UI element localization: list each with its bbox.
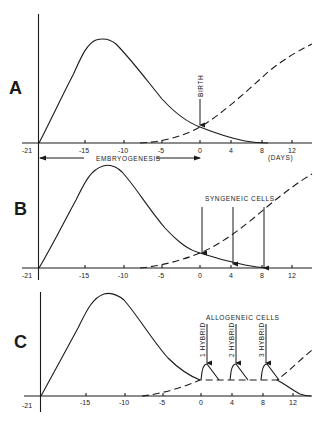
svg-text:-5: -5 [159,399,165,406]
svg-text:-15: -15 [79,147,89,154]
hybrid-label-3: 3 HYBRID [258,322,265,357]
curve-solid-c [41,293,200,396]
hybrid-label-1: 1 HYBRID [199,322,206,357]
svg-text:8: 8 [260,147,264,154]
panel-label-b: B [14,199,27,219]
allogeneic-label: ALLOGENEIC CELLS [206,314,280,321]
panel-c: C -21 -15 -10 -5 0 4 8 12 [14,292,312,412]
curve-solid-b [39,165,268,268]
syngeneic-label: SYNGENEIC CELLS [205,195,275,202]
svg-text:-10: -10 [118,147,128,154]
svg-text:12: 12 [289,399,297,406]
svg-text:4: 4 [230,399,234,406]
svg-text:0: 0 [198,272,202,279]
figure: A -21 -15 -10 -5 0 4 8 12 (DAYS) [0,0,333,427]
svg-text:12: 12 [288,147,296,154]
svg-text:8: 8 [261,399,265,406]
hybrid-bump-3 [261,364,279,380]
curve-solid-a [39,39,268,143]
svg-text:4: 4 [229,147,233,154]
panel-a: A -21 -15 -10 -5 0 4 8 12 (DAYS) [9,14,312,165]
panel-b: B -21 -15 -10 -5 0 4 8 12 SYNGENEIC CELL… [14,165,312,280]
svg-text:0: 0 [198,147,202,154]
curve-dashed-a [140,44,312,143]
svg-text:0: 0 [199,399,203,406]
curve-solid-c-tail [277,380,311,396]
birth-label: BIRTH [197,75,204,97]
svg-text:-5: -5 [158,147,164,154]
hybrid-bump-2 [230,364,248,380]
hybrid-label-2: 2 HYBRID [228,322,235,357]
svg-text:-15: -15 [80,399,90,406]
svg-text:8: 8 [260,272,264,279]
svg-text:-10: -10 [118,272,128,279]
svg-text:-5: -5 [158,272,164,279]
svg-text:-21: -21 [22,272,32,279]
svg-text:-21: -21 [22,402,32,409]
x-tick-labels-b: -21 -15 -10 -5 0 4 8 12 [22,272,296,279]
units-label: (DAYS) [268,154,293,162]
x-tick-labels-a: -21 -15 -10 -5 0 4 8 12 [22,147,296,154]
curve-dashed-b [140,174,312,268]
svg-text:-21: -21 [22,147,32,154]
panel-label-a: A [9,78,22,98]
x-tick-labels-c: -21 -15 -10 -5 0 4 8 12 [22,399,297,409]
svg-text:-10: -10 [119,399,129,406]
panel-label-c: C [14,332,27,352]
svg-text:-15: -15 [79,272,89,279]
hybrid-bump-1 [201,364,219,380]
svg-text:12: 12 [288,272,296,279]
embryogenesis-label: EMBRYOGENESIS [96,155,161,162]
svg-text:4: 4 [229,272,233,279]
